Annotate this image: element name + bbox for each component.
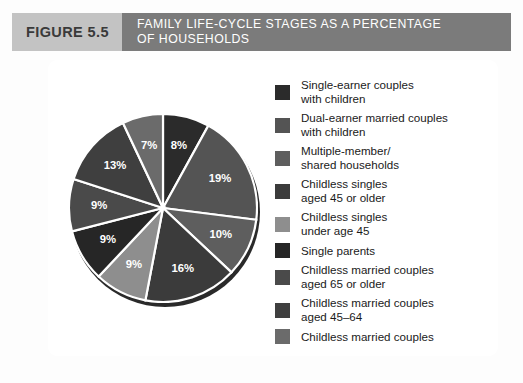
pie-slice-label: 8%	[171, 139, 187, 151]
pie-slice-label: 7%	[141, 139, 157, 151]
pie-slice-label: 16%	[171, 262, 194, 274]
figure-number-box: FIGURE 5.5	[12, 13, 122, 51]
pie-slice-label: 9%	[91, 199, 107, 211]
legend-item: Single parents	[275, 243, 500, 258]
legend-item-label-line: aged 45–64	[301, 310, 434, 324]
legend-item-label-line: aged 65 or older	[301, 277, 434, 291]
legend-color-swatch	[275, 270, 290, 285]
figure-number-label: FIGURE 5.5	[26, 24, 109, 40]
pie-slice-label: 9%	[100, 233, 116, 245]
legend-item-label-line: with children	[301, 125, 448, 139]
legend-item-label-line: Multiple-member/	[301, 144, 399, 158]
legend-item: Childless married couplesaged 45–64	[275, 296, 500, 324]
legend-item-label: Single parents	[301, 244, 375, 258]
legend-item-label: Multiple-member/shared households	[301, 144, 399, 172]
legend-color-swatch	[275, 85, 290, 100]
legend-item-label: Childless married couples	[301, 330, 434, 344]
legend-item-label-line: with children	[301, 92, 414, 106]
legend-color-swatch	[275, 118, 290, 133]
legend-item-label-line: under age 45	[301, 224, 387, 238]
legend-item-label-line: Childless married couples	[301, 263, 434, 277]
legend-item-label-line: Single-earner couples	[301, 78, 414, 92]
legend-color-swatch	[275, 303, 290, 318]
legend-item-label: Childless married couplesaged 45–64	[301, 296, 434, 324]
legend-item: Childless married couplesaged 65 or olde…	[275, 263, 500, 291]
chart-legend: Single-earner coupleswith childrenDual-e…	[275, 78, 500, 349]
legend-item: Childless singlesunder age 45	[275, 210, 500, 238]
pie-slice-label: 13%	[104, 159, 127, 171]
pie-slice-label: 9%	[126, 258, 142, 270]
legend-item-label: Dual-earner married coupleswith children	[301, 111, 448, 139]
legend-item: Dual-earner married coupleswith children	[275, 111, 500, 139]
pie-slice-label: 10%	[209, 228, 232, 240]
legend-item-label-line: Childless singles	[301, 210, 387, 224]
legend-item-label: Childless singlesunder age 45	[301, 210, 387, 238]
legend-item: Single-earner coupleswith children	[275, 78, 500, 106]
legend-item-label-line: Single parents	[301, 244, 375, 258]
legend-item-label-line: Childless singles	[301, 177, 387, 191]
legend-item-label: Single-earner coupleswith children	[301, 78, 414, 106]
legend-item-label-line: Childless married couples	[301, 330, 434, 344]
figure-title-line-1: FAMILY LIFE-CYCLE STAGES AS A PERCENTAGE	[137, 17, 511, 33]
pie-slice-label: 19%	[209, 172, 232, 184]
legend-item-label-line: shared households	[301, 158, 399, 172]
legend-color-swatch	[275, 184, 290, 199]
pie-chart-svg: 8%19%10%16%9%9%9%13%7%	[68, 113, 258, 303]
legend-item-label-line: Dual-earner married couples	[301, 111, 448, 125]
legend-item-label-line: Childless married couples	[301, 296, 434, 310]
figure-header: FIGURE 5.5 FAMILY LIFE-CYCLE STAGES AS A…	[12, 13, 511, 51]
figure-title-line-2: OF HOUSEHOLDS	[137, 32, 511, 48]
figure-container: FIGURE 5.5 FAMILY LIFE-CYCLE STAGES AS A…	[0, 0, 523, 383]
legend-item-label: Childless married couplesaged 65 or olde…	[301, 263, 434, 291]
pie-chart: 8%19%10%16%9%9%9%13%7%	[68, 113, 258, 303]
legend-item: Childless married couples	[275, 329, 500, 344]
legend-color-swatch	[275, 217, 290, 232]
figure-title-box: FAMILY LIFE-CYCLE STAGES AS A PERCENTAGE…	[122, 13, 511, 51]
legend-item-label-line: aged 45 or older	[301, 191, 387, 205]
legend-color-swatch	[275, 243, 290, 258]
legend-color-swatch	[275, 151, 290, 166]
legend-item: Multiple-member/shared households	[275, 144, 500, 172]
legend-item: Childless singlesaged 45 or older	[275, 177, 500, 205]
legend-item-label: Childless singlesaged 45 or older	[301, 177, 387, 205]
legend-color-swatch	[275, 329, 290, 344]
